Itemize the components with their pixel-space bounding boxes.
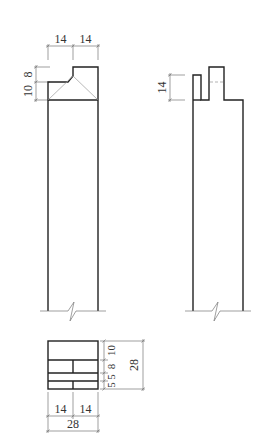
side-dimension: 14 [155,73,185,102]
plan-right-dimension: 10 8 5 5 28 [100,339,145,391]
dim-label: 14 [155,82,169,94]
plan-bottom-dimension: 14 14 28 [46,392,100,433]
dim-label: 14 [80,402,92,416]
dim-label: 14 [55,32,67,46]
dim-label: 5 [105,382,117,388]
break-line [40,302,106,321]
dim-label: 14 [55,402,67,416]
dim-label: 28 [127,359,141,371]
dim-label: 10 [105,345,117,357]
front-side-dimension: 8 10 [21,65,50,102]
dim-label: 10 [21,85,35,97]
front-top-dimension: 14 14 [46,32,100,60]
dim-label: 14 [80,32,92,46]
side-elevation: 14 [155,67,251,321]
dim-label: 8 [105,363,117,369]
dim-label: 28 [67,417,79,431]
technical-drawing: 14 14 8 10 [0,0,257,440]
dim-label: 5 [105,374,117,380]
plan-view: 10 8 5 5 28 14 14 28 [46,339,145,433]
dim-label: 8 [21,72,35,78]
break-line [185,302,251,321]
front-elevation: 14 14 8 10 [21,32,106,321]
